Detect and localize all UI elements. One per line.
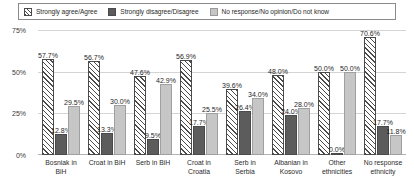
bar-value-label: 70.6% bbox=[360, 30, 380, 37]
bar-value-label: 50.0% bbox=[340, 65, 360, 72]
bar-set: 70.6%17.7%11.8% bbox=[360, 30, 406, 155]
bar[interactable]: 9.5% bbox=[147, 139, 159, 155]
x-axis-label-line: Bosniak in bbox=[39, 158, 83, 167]
x-axis-label: Croat in BiH bbox=[84, 158, 130, 176]
x-axis-label-line: Albanian in bbox=[269, 158, 313, 167]
x-axis-label-line: Croatia bbox=[177, 167, 221, 176]
grouped-bar-chart: Strongly agree/Agree Strongly disagree/D… bbox=[0, 0, 414, 186]
bar[interactable]: 42.9% bbox=[160, 84, 172, 156]
bar[interactable]: 0.0% bbox=[331, 153, 343, 155]
bar-group: 50.0%0.0%50.0% bbox=[314, 30, 360, 155]
x-axis-label: Albanian inKosovo bbox=[268, 158, 314, 176]
x-axis-label-line: Croat in bbox=[177, 158, 221, 167]
bar-set: 56.9%17.7%25.5% bbox=[176, 30, 222, 155]
plot-area: 75%50%25%0% 57.7%12.8%29.5%56.7%13.3%30.… bbox=[38, 30, 406, 155]
bar-group: 47.6%9.5%42.9% bbox=[130, 30, 176, 155]
bar[interactable]: 24.0% bbox=[285, 115, 297, 155]
legend-label-strongly-agree: Strongly agree/Agree bbox=[36, 8, 97, 15]
hatch-swatch-icon bbox=[24, 8, 32, 16]
bar-value-label: 34.0% bbox=[248, 91, 268, 98]
bar[interactable]: 12.8% bbox=[55, 134, 67, 155]
bar[interactable]: 50.0% bbox=[318, 72, 330, 155]
bar-set: 48.0%24.0%28.0% bbox=[268, 30, 314, 155]
x-axis-label-line: Serb in BiH bbox=[131, 158, 175, 167]
bar[interactable]: 56.7% bbox=[88, 61, 100, 156]
bar-value-label: 25.5% bbox=[202, 106, 222, 113]
bar-group: 56.9%17.7%25.5% bbox=[176, 30, 222, 155]
x-axis-label: Serb inSerbia bbox=[222, 158, 268, 176]
bar[interactable]: 70.6% bbox=[364, 37, 376, 155]
bar-set: 39.6%26.4%34.0% bbox=[222, 30, 268, 155]
bar-value-label: 56.9% bbox=[176, 53, 196, 60]
bar-group: 56.7%13.3%30.0% bbox=[84, 30, 130, 155]
bar-value-label: 28.0% bbox=[294, 101, 314, 108]
x-axis-label: Serb in BiH bbox=[130, 158, 176, 176]
legend-label-no-response: No response/No opinion/Do not know bbox=[222, 8, 330, 15]
bar-value-label: 48.0% bbox=[268, 68, 288, 75]
bar-set: 56.7%13.3%30.0% bbox=[84, 30, 130, 155]
legend-item-strongly-agree[interactable]: Strongly agree/Agree bbox=[24, 8, 97, 16]
x-axis-label-line: Croat in BiH bbox=[85, 158, 129, 167]
x-axis-label-line: BiH bbox=[39, 167, 83, 176]
bar[interactable]: 48.0% bbox=[272, 75, 284, 155]
bar-group: 70.6%17.7%11.8% bbox=[360, 30, 406, 155]
bar[interactable]: 28.0% bbox=[298, 108, 310, 155]
bar[interactable]: 50.0% bbox=[344, 72, 356, 155]
bar-group: 39.6%26.4%34.0% bbox=[222, 30, 268, 155]
bar-group: 57.7%12.8%29.5% bbox=[38, 30, 84, 155]
bar[interactable]: 57.7% bbox=[42, 59, 54, 155]
x-axis-label-line: No response bbox=[361, 158, 405, 167]
bar[interactable]: 30.0% bbox=[114, 105, 126, 155]
x-axis-label-line: Serb in bbox=[223, 158, 267, 167]
bar-value-label: 17.7% bbox=[373, 119, 393, 126]
bar-value-label: 57.7% bbox=[38, 52, 58, 59]
legend-item-no-response[interactable]: No response/No opinion/Do not know bbox=[210, 8, 330, 16]
solid-light-swatch-icon bbox=[210, 8, 218, 16]
x-axis-label: Croat inCroatia bbox=[176, 158, 222, 176]
bar[interactable]: 29.5% bbox=[68, 106, 80, 155]
y-axis-tick-label: 50% bbox=[0, 68, 26, 75]
bar[interactable]: 56.9% bbox=[180, 60, 192, 155]
bar[interactable]: 47.6% bbox=[134, 76, 146, 155]
x-axis-labels: Bosniak inBiHCroat in BiHSerb in BiHCroa… bbox=[38, 158, 406, 176]
bar-value-label: 11.8% bbox=[386, 128, 405, 135]
bar-value-label: 56.7% bbox=[84, 54, 104, 61]
bar-set: 47.6%9.5%42.9% bbox=[130, 30, 176, 155]
bar-value-label: 50.0% bbox=[314, 65, 334, 72]
bar-value-label: 39.6% bbox=[222, 82, 242, 89]
chart-legend: Strongly agree/Agree Strongly disagree/D… bbox=[18, 3, 396, 20]
y-axis-tick-label: 25% bbox=[0, 110, 26, 117]
legend-label-strongly-disagree: Strongly disagree/Disagree bbox=[120, 8, 198, 15]
solid-dark-swatch-icon bbox=[108, 8, 116, 16]
bar[interactable]: 13.3% bbox=[101, 133, 113, 155]
bar-groups: 57.7%12.8%29.5%56.7%13.3%30.0%47.6%9.5%4… bbox=[38, 30, 406, 155]
bar-group: 48.0%24.0%28.0% bbox=[268, 30, 314, 155]
bar-value-label: 30.0% bbox=[110, 98, 130, 105]
bar[interactable]: 39.6% bbox=[226, 89, 238, 155]
bar[interactable]: 25.5% bbox=[206, 113, 218, 156]
y-axis-tick-label: 75% bbox=[0, 27, 26, 34]
bar-value-label: 0.0% bbox=[329, 146, 345, 153]
bar-set: 57.7%12.8%29.5% bbox=[38, 30, 84, 155]
x-axis-label-line: Serbia bbox=[223, 167, 267, 176]
y-axis-tick-label: 0% bbox=[0, 152, 26, 159]
bar-value-label: 29.5% bbox=[64, 99, 84, 106]
bar-value-label: 47.6% bbox=[130, 69, 150, 76]
x-axis-label: Otherethnicities bbox=[314, 158, 360, 176]
x-axis-label: No responseethnicity bbox=[360, 158, 406, 176]
bar-set: 50.0%0.0%50.0% bbox=[314, 30, 360, 155]
x-axis-label: Bosniak inBiH bbox=[38, 158, 84, 176]
x-axis-label-line: ethnicities bbox=[315, 167, 359, 176]
bar[interactable]: 34.0% bbox=[252, 98, 264, 155]
legend-item-strongly-disagree[interactable]: Strongly disagree/Disagree bbox=[108, 8, 198, 16]
bar-value-label: 42.9% bbox=[156, 77, 176, 84]
bar[interactable]: 17.7% bbox=[193, 126, 205, 156]
x-axis-label-line: Kosovo bbox=[269, 167, 313, 176]
bar[interactable]: 26.4% bbox=[239, 111, 251, 155]
x-axis-label-line: ethnicity bbox=[361, 167, 405, 176]
bar[interactable]: 11.8% bbox=[390, 135, 402, 155]
x-axis-label-line: Other bbox=[315, 158, 359, 167]
bar-value-label: 9.5% bbox=[145, 132, 161, 139]
